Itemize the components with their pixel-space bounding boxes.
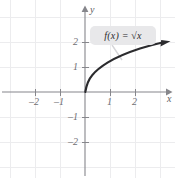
y-tick-label-1: 1 [73, 62, 78, 72]
y-tick-label--1: –1 [68, 112, 78, 122]
y-axis-arrowhead [82, 6, 89, 13]
y-tick-label-2: 2 [73, 37, 78, 47]
x-tick-label-1: 1 [107, 97, 112, 107]
y-tick-label--2: –2 [68, 137, 78, 147]
x-axis-label: x [167, 94, 171, 104]
y-axis-label: y [90, 5, 94, 15]
function-label-text: f(x) = √x [104, 30, 141, 41]
x-tick-label--2: –2 [29, 97, 39, 107]
x-tick-label-2: 2 [132, 97, 137, 107]
function-label-callout: f(x) = √x [90, 26, 156, 45]
function-graph-figure: y x –2 –1 1 2 2 1 –1 –2 f(x) = √x [0, 0, 175, 178]
x-tick-label--1: –1 [54, 97, 64, 107]
curve-arrowhead [161, 40, 171, 47]
